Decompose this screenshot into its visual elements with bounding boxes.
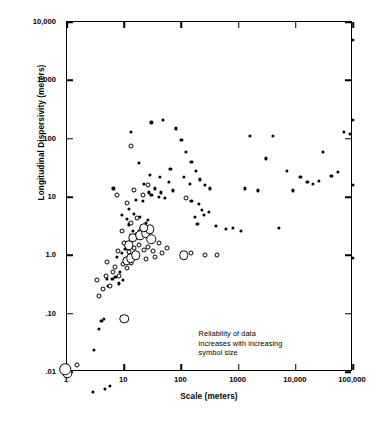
data-point xyxy=(189,250,194,255)
data-point xyxy=(159,191,162,194)
data-point xyxy=(197,203,200,206)
data-point xyxy=(184,150,187,153)
x-tick-mark-top xyxy=(238,22,240,28)
data-point xyxy=(285,169,288,172)
y-tick-mark xyxy=(67,80,73,82)
x-tick-mark xyxy=(238,364,240,370)
data-point xyxy=(125,217,128,220)
data-point xyxy=(132,188,137,193)
data-point xyxy=(147,234,157,244)
data-point xyxy=(299,175,302,178)
data-point xyxy=(116,248,121,253)
data-point xyxy=(264,157,267,160)
data-point xyxy=(156,241,161,246)
data-point xyxy=(129,130,132,133)
x-tick-mark xyxy=(352,364,354,370)
data-point xyxy=(164,245,169,250)
data-point xyxy=(204,183,207,186)
scatter-chart-figure: Longitudinal Dispersivity (meters) Scale… xyxy=(0,0,381,425)
data-point xyxy=(200,208,203,211)
y-tick-mark xyxy=(67,21,73,23)
x-tick-label: 1000 xyxy=(229,375,246,384)
data-point xyxy=(151,248,156,253)
data-point xyxy=(351,183,354,186)
data-point xyxy=(150,121,153,124)
data-point xyxy=(277,226,280,229)
x-tick-label: 100 xyxy=(174,375,187,384)
x-tick-mark xyxy=(295,364,297,370)
data-point xyxy=(249,135,252,138)
y-tick-label: .10 xyxy=(0,308,56,317)
x-tick-label: 100,000 xyxy=(338,375,365,384)
data-point xyxy=(143,257,148,262)
data-point xyxy=(214,224,217,227)
data-point xyxy=(119,229,124,234)
data-point xyxy=(152,254,157,259)
data-point xyxy=(153,187,156,190)
data-point xyxy=(164,197,167,200)
x-tick-mark-top xyxy=(352,22,354,28)
y-tick-mark-right xyxy=(345,371,351,373)
data-point xyxy=(198,178,201,181)
x-tick-mark-top xyxy=(123,22,125,28)
data-point xyxy=(102,317,105,320)
data-point xyxy=(183,196,188,201)
data-point xyxy=(100,287,105,292)
data-point xyxy=(112,265,117,270)
data-point xyxy=(337,170,340,173)
x-tick-mark-top xyxy=(295,22,297,28)
data-point xyxy=(209,187,212,190)
y-tick-mark-right xyxy=(345,138,351,140)
data-point xyxy=(239,230,242,233)
data-point xyxy=(188,182,191,185)
data-point xyxy=(182,175,185,178)
data-point xyxy=(145,244,150,249)
origin-reference-symbol xyxy=(59,363,71,375)
data-point xyxy=(115,255,118,258)
x-tick-mark xyxy=(123,364,125,370)
data-point xyxy=(207,211,210,214)
data-point xyxy=(306,181,309,184)
data-point xyxy=(194,169,197,172)
data-point xyxy=(134,198,137,201)
y-tick-mark-right xyxy=(345,313,351,315)
data-point xyxy=(120,213,123,216)
data-point xyxy=(351,118,354,121)
data-point xyxy=(174,127,177,130)
data-point xyxy=(203,213,206,216)
x-tick-label: 10,000 xyxy=(283,375,306,384)
data-point xyxy=(141,200,144,203)
data-point xyxy=(292,189,295,192)
y-tick-mark xyxy=(67,255,73,257)
x-tick-label: 10 xyxy=(119,375,127,384)
data-point xyxy=(271,135,274,138)
data-point xyxy=(120,251,123,254)
data-point xyxy=(162,118,165,121)
reliability-annotation: Reliability of data increases with incre… xyxy=(199,329,283,358)
data-point xyxy=(140,192,145,197)
data-point xyxy=(190,160,193,163)
data-point xyxy=(311,182,314,185)
data-point xyxy=(244,187,247,190)
data-point xyxy=(145,183,150,188)
y-tick-mark xyxy=(67,313,73,315)
data-point xyxy=(203,253,208,258)
data-point xyxy=(128,220,133,225)
data-point xyxy=(107,283,112,288)
data-point xyxy=(180,138,183,141)
data-point xyxy=(158,175,161,178)
data-point xyxy=(257,189,260,192)
y-tick-mark-right xyxy=(345,80,351,82)
data-point xyxy=(121,278,124,281)
data-point xyxy=(124,200,129,205)
data-point xyxy=(115,192,120,197)
data-point xyxy=(95,277,100,282)
data-point xyxy=(169,168,172,171)
data-point xyxy=(131,251,141,261)
data-point xyxy=(103,273,108,278)
y-tick-label: 100 xyxy=(0,133,56,142)
data-point xyxy=(330,174,333,177)
data-point xyxy=(231,226,234,229)
data-point xyxy=(117,274,122,279)
data-point xyxy=(128,143,133,148)
